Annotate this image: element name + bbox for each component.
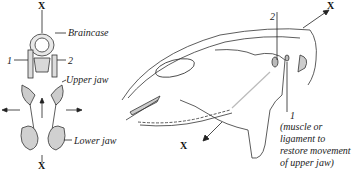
label-braincase: Braincase — [68, 27, 109, 38]
note-line-1: (muscle or — [280, 121, 356, 133]
label-upper-jaw: Upper jaw — [66, 74, 109, 85]
label-2-right: 2 — [270, 11, 275, 22]
note-line-4: of upper jaw) — [280, 157, 356, 169]
label-1-right: 1 — [290, 110, 295, 121]
label-2-left: 2 — [68, 55, 73, 66]
note-line-3: restore movement — [280, 145, 356, 157]
axis-x-top-right: X — [327, 0, 334, 11]
axis-x-top-left: X — [38, 0, 45, 11]
top-view-skull — [21, 34, 65, 150]
label-lower-jaw: Lower jaw — [74, 135, 117, 146]
axis-x-bottom-left: X — [38, 160, 45, 171]
axis-x-bottom-right: X — [180, 140, 187, 151]
note-line-2: ligament to — [280, 133, 356, 145]
label-1-left: 1 — [7, 55, 12, 66]
note-muscle-ligament: (muscle or ligament to restore movement … — [280, 121, 356, 169]
